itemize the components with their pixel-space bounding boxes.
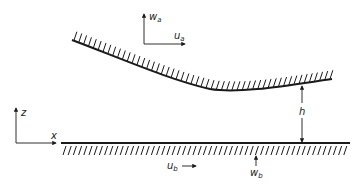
upper-surface-hatching [74,32,333,91]
upper-surface [72,32,333,91]
wa-label: wa [149,11,161,24]
coordinate-axes: z x [16,107,57,143]
x-axis-label: x [50,130,57,141]
lower-surface-hatching [63,146,347,155]
ub-label: ub [167,160,178,173]
lower-surface [61,143,350,155]
lubrication-gap-diagram: wa ua z x h ub wb [0,0,362,186]
gap-height-label: h [299,106,305,117]
lower-velocity-labels: ub wb [167,156,263,180]
ua-label: ua [174,30,185,43]
wb-label: wb [250,167,263,180]
z-axis-label: z [20,107,27,118]
upper-velocity-frame: wa ua [144,11,185,44]
gap-height-dimension: h [299,86,305,142]
